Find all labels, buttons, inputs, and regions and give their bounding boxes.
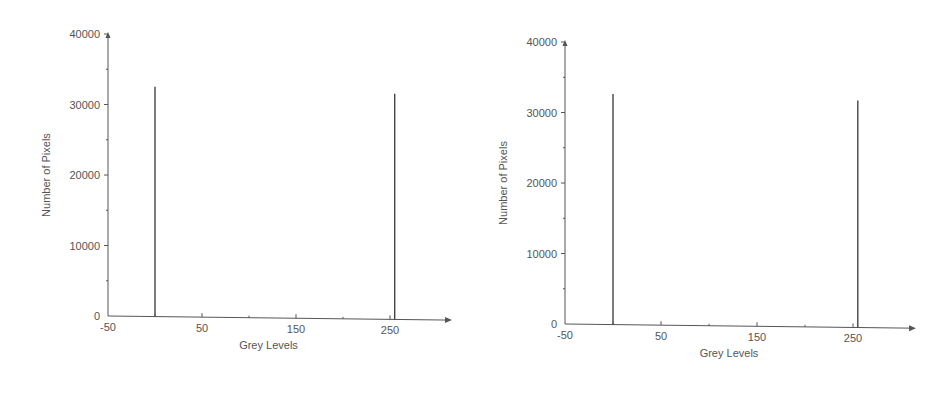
x-axis-arrow-icon	[445, 317, 452, 323]
y-axis-title: Number of Pixels	[40, 133, 52, 217]
x-tick-label: -50	[557, 329, 573, 341]
y-tick-label: 20000	[526, 177, 557, 189]
x-tick-label: 250	[381, 324, 399, 336]
y-tick-label: 20000	[69, 169, 100, 181]
x-tick-label: 150	[287, 323, 305, 335]
x-tick-label: 150	[748, 331, 766, 343]
y-tick-label: 40000	[69, 28, 100, 40]
y-axis-title: Number of Pixels	[497, 141, 509, 225]
x-tick-label: -50	[100, 321, 116, 333]
y-axis-arrow-icon	[106, 32, 111, 38]
x-axis-title: Grey Levels	[700, 347, 759, 359]
histogram-chart-left: 010000200003000040000-5050150250Grey Lev…	[0, 0, 471, 397]
x-axis-title: Grey Levels	[239, 339, 298, 351]
y-tick-label: 10000	[69, 240, 100, 252]
y-tick-label: 30000	[69, 99, 100, 111]
y-tick-label: 30000	[526, 107, 557, 119]
x-tick-label: 250	[844, 332, 862, 344]
y-axis-arrow-icon	[563, 40, 568, 46]
y-tick-label: 40000	[526, 36, 557, 48]
x-axis-arrow-icon	[909, 325, 916, 331]
x-tick-label: 50	[196, 322, 208, 334]
y-tick-label: 10000	[526, 248, 557, 260]
x-tick-label: 50	[655, 330, 667, 342]
histogram-chart-right: 010000200003000040000-5050150250Grey Lev…	[471, 0, 942, 397]
